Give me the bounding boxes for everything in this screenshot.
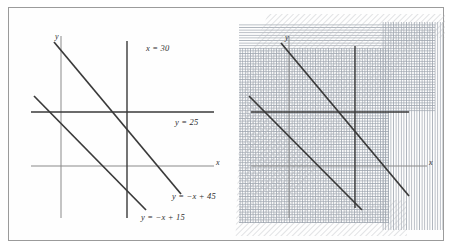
shaded-region-panel: y x xyxy=(231,8,445,242)
label-y-neg-x-45: y = −x + 45 xyxy=(172,192,216,201)
label-x-30: x = 30 xyxy=(146,44,169,53)
boundary-lines-panel: y x x = 30 y = 25 y = −x + 45 y = −x + 1… xyxy=(9,8,231,242)
line-y-neg-x-15 xyxy=(34,96,146,210)
x-axis-label: x xyxy=(429,159,433,167)
label-y-neg-x-15: y = −x + 15 xyxy=(141,213,185,222)
x-axis-label: x xyxy=(216,159,220,167)
shaded-region-graph xyxy=(231,8,445,242)
y-axis-label: y xyxy=(285,34,289,42)
y-axis-label: y xyxy=(55,33,59,41)
line-y-neg-x-45 xyxy=(54,42,181,194)
figure-frame: y x x = 30 y = 25 y = −x + 45 y = −x + 1… xyxy=(8,7,444,241)
label-y-25: y = 25 xyxy=(175,118,198,127)
